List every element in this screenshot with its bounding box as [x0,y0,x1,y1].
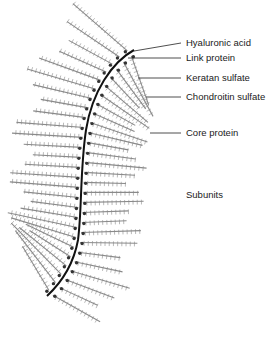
label-chondroitin-sulfate: Chondroitin sulfate [186,92,265,102]
label-link-protein: Link protein [186,53,235,63]
label-core-protein: Core protein [186,128,238,138]
proteoglycan-diagram [0,0,277,345]
subunits-group [8,2,153,323]
label-hyaluronic-acid: Hyaluronic acid [186,38,251,48]
label-subunits: Subunits [186,190,223,200]
label-keratan-sulfate: Keratan sulfate [186,73,250,83]
